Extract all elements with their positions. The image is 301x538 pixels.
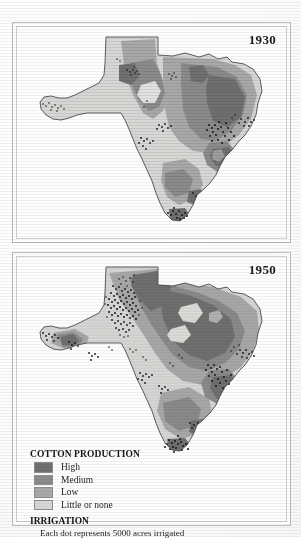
legend-swatch-medium [34,475,53,486]
legend-label-low: Low [61,487,78,497]
legend-swatch-low [34,487,53,498]
legend-item-high: High [34,461,200,474]
map-1930-regions [13,23,290,242]
legend-item-medium: Medium [34,474,200,487]
legend-title-irrigation: IRRIGATION [30,516,200,526]
legend-item-little-or-none: Little or none [34,499,200,512]
legend-title-cotton-production: COTTON PRODUCTION [30,449,200,459]
legend-label-high: High [61,462,80,472]
map-panel-1950: 1950 COTTON PRODUCTION High Medium Low L… [12,252,291,526]
legend-swatch-little-or-none [34,500,53,511]
year-label-1930: 1930 [249,32,276,48]
map-1930 [13,23,290,242]
map-legend: COTTON PRODUCTION High Medium Low Little… [30,449,200,538]
legend-irrigation-note: Each dot represents 5000 acres irrigated [40,528,200,538]
legend-item-low: Low [34,486,200,499]
legend-label-little-or-none: Little or none [61,500,113,510]
year-label-1950: 1950 [249,262,276,278]
texas-map-1930-svg [13,23,290,242]
legend-swatch-high [34,462,53,473]
legend-label-medium: Medium [61,475,93,485]
map-panel-1930: 1930 [12,22,291,243]
